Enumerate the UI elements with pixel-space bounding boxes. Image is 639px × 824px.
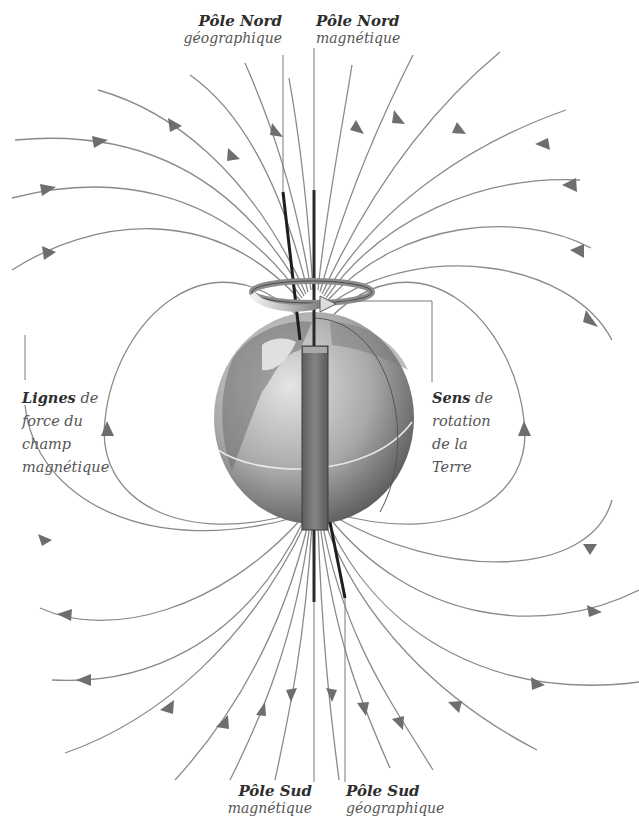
arrow-icon	[160, 700, 174, 714]
field-line-sr-7	[330, 500, 612, 562]
arrow-icon	[570, 244, 584, 258]
field-line-nl-2	[12, 187, 302, 298]
arrow-icon	[57, 609, 72, 621]
label-field-lines: Lignes de force du champ magnétique	[22, 386, 142, 479]
label-field-lines-keyword: Lignes	[22, 389, 76, 406]
label-field-lines-line3: champ	[22, 433, 142, 456]
arrow-icon	[531, 677, 545, 690]
label-south-magnetic-line2: magnétique	[196, 800, 312, 817]
label-north-magnetic: Pôle Nord magnétique	[316, 12, 436, 47]
label-rotation-line2: rotation	[432, 410, 522, 433]
arrow-icon	[583, 544, 597, 555]
rotation-arrow	[252, 281, 372, 312]
label-field-lines-line4: magnétique	[22, 456, 142, 479]
arrow-icon	[286, 688, 297, 702]
label-north-geographic: Pôle Nord géographique	[176, 12, 282, 47]
label-north-magnetic-line2: magnétique	[316, 30, 436, 47]
arrow-icon	[227, 148, 240, 161]
label-rotation-line4: Terre	[432, 456, 522, 479]
arrow-icon	[76, 674, 91, 686]
arrow-icon	[392, 110, 405, 124]
field-line-sr-6	[328, 516, 639, 616]
arrow-icon	[92, 136, 108, 148]
arrow-icon	[256, 702, 266, 716]
label-north-geographic-line2: géographique	[176, 30, 282, 47]
label-rotation-rest: de	[470, 390, 492, 406]
arrow-icon	[38, 534, 52, 546]
field-line-sl-2	[40, 518, 302, 620]
label-south-magnetic: Pôle Sud magnétique	[196, 782, 312, 817]
arrow-icon	[452, 122, 466, 134]
arrow-icon	[535, 138, 550, 150]
field-line-nl-7	[289, 78, 313, 290]
label-field-lines-line2: force du	[22, 410, 142, 433]
label-field-lines-rest: de	[76, 390, 98, 406]
field-line-sl-5	[175, 524, 308, 780]
label-south-magnetic-line1: Pôle Sud	[196, 782, 312, 800]
arrow-icon	[270, 123, 283, 137]
label-rotation-keyword: Sens	[432, 389, 470, 406]
field-line-nr-4	[324, 110, 566, 296]
arrow-icon	[350, 120, 364, 134]
field-line-nl-6	[245, 63, 311, 290]
label-north-magnetic-line1: Pôle Nord	[316, 12, 436, 30]
label-rotation: Sens de rotation de la Terre	[432, 386, 522, 479]
label-south-geographic: Pôle Sud géographique	[346, 782, 486, 817]
field-line-nr-5	[326, 180, 580, 298]
field-line-sl-3	[52, 520, 304, 680]
label-north-geographic-line1: Pôle Nord	[176, 12, 282, 30]
field-line-nr-7	[330, 266, 612, 340]
arrow-icon	[326, 688, 337, 702]
field-line-sr-5	[326, 518, 639, 685]
arrow-icon	[392, 716, 404, 730]
arrow-icon	[216, 715, 229, 729]
arrow-icon	[448, 701, 462, 713]
rotation-arrowhead-icon	[320, 296, 336, 312]
field-line-sr-1	[318, 524, 339, 780]
field-line-nr-1	[318, 65, 352, 290]
label-rotation-line3: de la	[432, 433, 522, 456]
label-south-geographic-line1: Pôle Sud	[346, 782, 486, 800]
label-south-geographic-line2: géographique	[346, 800, 486, 817]
bar-magnet	[302, 346, 328, 530]
